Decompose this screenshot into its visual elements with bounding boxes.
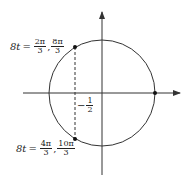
bottom-fraction-2: 10π 3 <box>57 140 74 157</box>
top-fraction-2: 8π 3 <box>51 38 63 55</box>
top-separator: , <box>47 41 50 52</box>
half-fraction: 1 2 <box>86 97 93 114</box>
bottom-angle-label: 8t = 4π 3 , 10π 3 <box>16 140 76 157</box>
negative-half-label: − 1 2 <box>77 97 94 114</box>
top-fraction-1: 2π 3 <box>34 38 46 55</box>
top-lhs: 8t <box>10 41 20 52</box>
upper-point <box>73 45 77 49</box>
top-angle-label: 8t = 2π 3 , 8π 3 <box>10 38 65 55</box>
top-equals: = <box>22 41 30 52</box>
bottom-equals: = <box>28 143 36 154</box>
bottom-separator: , <box>53 143 56 154</box>
bottom-lhs: 8t <box>16 143 26 154</box>
right-point <box>153 91 157 95</box>
bottom-fraction-1: 4π 3 <box>40 140 52 157</box>
half-sign: − <box>77 100 85 111</box>
